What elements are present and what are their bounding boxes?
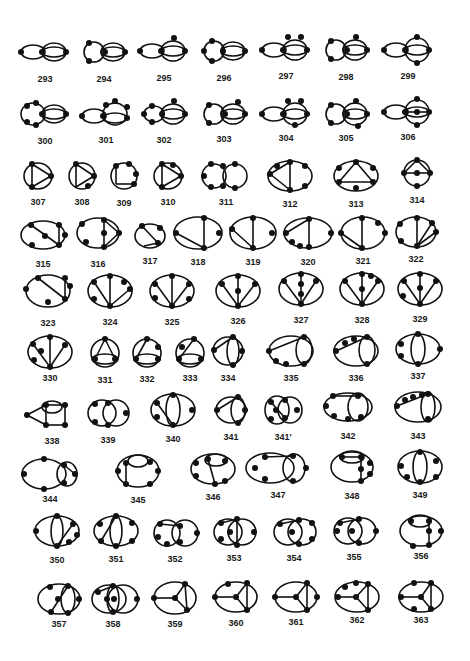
- vertex-dot: [42, 233, 48, 239]
- vertex-dot: [62, 296, 68, 302]
- vertex-dot: [367, 471, 373, 477]
- loop-line: [22, 459, 66, 489]
- vertex-dot: [54, 543, 60, 549]
- vertex-dot: [116, 230, 122, 236]
- vertex-dot: [336, 165, 342, 171]
- vertex-dot: [39, 111, 45, 117]
- edge-line: [50, 345, 65, 367]
- graph-diagram: [212, 580, 257, 613]
- vertex-dot: [113, 513, 119, 519]
- vertex-dot: [61, 462, 67, 468]
- graph-diagram: [398, 271, 442, 307]
- vertex-dot: [219, 281, 225, 287]
- vertex-dot: [301, 334, 307, 340]
- vertex-dot: [398, 353, 404, 359]
- diagram-number-label: 330: [42, 373, 57, 383]
- graph-diagram: [151, 392, 195, 428]
- vertex-dot: [281, 278, 287, 284]
- vertex-dot: [107, 273, 113, 279]
- vertex-dot: [334, 528, 340, 534]
- vertex-dot: [111, 596, 117, 602]
- vertex-dot: [67, 283, 73, 289]
- diagram-number-label: 325: [164, 317, 179, 327]
- vertex-dot: [344, 111, 350, 117]
- vertex-dot: [289, 239, 295, 245]
- vertex-dot: [411, 580, 417, 586]
- graph-diagram: [401, 157, 433, 189]
- vertex-dot: [170, 392, 176, 398]
- vertex-dot: [70, 521, 76, 527]
- vertex-dot: [242, 48, 248, 54]
- diagram-number-label: 318: [190, 257, 205, 267]
- vertex-dot: [428, 606, 434, 612]
- vertex-dot: [211, 347, 217, 353]
- graph-diagram: [173, 215, 222, 251]
- vertex-dot: [328, 120, 334, 126]
- vertex-dot: [182, 581, 188, 587]
- vertex-dot: [298, 291, 304, 297]
- vertex-dot: [427, 170, 433, 176]
- vertex-dot: [206, 102, 212, 108]
- vertex-dot: [139, 223, 145, 229]
- vertex-dot: [176, 356, 182, 362]
- vertex-dot: [370, 165, 376, 171]
- vertex-dot: [402, 47, 408, 53]
- vertex-dot: [274, 163, 280, 169]
- vertex-dot: [179, 344, 185, 350]
- vertex-dot: [113, 163, 119, 169]
- vertex-dot: [177, 539, 183, 545]
- graph-diagram: [154, 161, 184, 190]
- vertex-dot: [129, 538, 135, 544]
- graph-diagram: [326, 98, 370, 129]
- diagram-number-label: 340: [165, 434, 180, 444]
- vertex-dot: [33, 528, 39, 534]
- vertex-dot: [353, 98, 359, 104]
- vertex-dot: [112, 356, 118, 362]
- vertex-dot: [418, 594, 424, 600]
- diagram-number-label: 317: [142, 256, 157, 266]
- edge-line: [270, 162, 290, 174]
- vertex-dot: [102, 336, 108, 342]
- diagram-number-label: 299: [400, 71, 415, 81]
- graph-diagram: [38, 583, 82, 616]
- vertex-dot: [230, 334, 236, 340]
- vertex-dot: [201, 245, 207, 251]
- graph-diagram: [21, 221, 68, 249]
- vertex-dot: [438, 528, 444, 534]
- vertex-dot: [208, 184, 214, 190]
- vertex-dot: [290, 478, 296, 484]
- diagram-number-label: 324: [102, 317, 117, 327]
- vertex-dot: [333, 348, 339, 354]
- vertex-dot: [230, 362, 236, 368]
- vertex-dot: [208, 161, 214, 167]
- vertex-dot: [63, 49, 69, 55]
- vertex-dot: [296, 541, 302, 547]
- vertex-dot: [290, 453, 296, 459]
- diagram-number-label: 361: [288, 617, 303, 627]
- graph-diagram: [84, 40, 128, 64]
- vertex-dot: [298, 34, 304, 40]
- vertex-dot: [47, 364, 53, 370]
- vertex-dot: [414, 109, 420, 115]
- vertex-dot: [72, 471, 78, 477]
- vertex-dot: [359, 245, 365, 251]
- vertex-dot: [429, 220, 435, 226]
- graph-diagram: [69, 161, 97, 189]
- vertex-dot: [38, 348, 44, 354]
- vertex-dot: [353, 34, 359, 40]
- vertex-dot: [364, 361, 370, 367]
- vertex-dot: [335, 594, 341, 600]
- vertex-dot: [198, 356, 204, 362]
- diagram-number-label: 296: [216, 73, 231, 83]
- vertex-dot: [205, 456, 211, 462]
- vertex-dot: [152, 281, 158, 287]
- vertex-dot: [133, 356, 139, 362]
- vertex-dot: [47, 584, 53, 590]
- vertex-dot: [302, 163, 308, 169]
- vertex-dot: [154, 400, 160, 406]
- vertex-dot: [159, 161, 165, 167]
- diagram-number-label: 351: [108, 554, 123, 564]
- diagram-number-label: 327: [293, 315, 308, 325]
- graph-diagram: [94, 513, 138, 549]
- vertex-dot: [55, 596, 61, 602]
